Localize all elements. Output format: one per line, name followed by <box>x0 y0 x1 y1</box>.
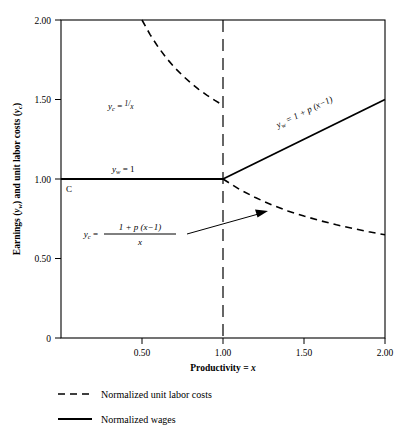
x-tick-label-100: 1.00 <box>215 348 232 358</box>
legend-label-unit-labor-costs: Normalized unit labor costs <box>101 389 212 400</box>
figure-container: 2.00 1.50 1.00 0.50 0 0.50 1.00 1.50 2.0… <box>0 0 405 433</box>
annotation-point-c: C <box>66 184 72 194</box>
x-axis-title-var: x <box>250 363 256 373</box>
annot-yw1-rest: = 1 <box>120 164 134 174</box>
y-axis-title: Earnings (yw) and unit labor costs (yc) <box>12 103 23 255</box>
x-axis-ticks <box>142 338 385 344</box>
annot-ycf-lhs: yc = <box>83 229 98 240</box>
y-axis-title-part3: ) <box>12 103 23 106</box>
y-axis-title-part1: Earnings ( <box>12 213 23 256</box>
x-axis-title: Productivity = x <box>190 363 256 373</box>
legend: Normalized unit labor costs Normalized w… <box>58 389 212 425</box>
y-axis-ticks <box>55 20 61 338</box>
annot-yc-eq: = <box>115 101 125 111</box>
annot-ycf-denominator: x <box>137 237 142 247</box>
y-tick-label-100: 1.00 <box>34 175 51 185</box>
annot-ycf-eq: = <box>91 229 98 239</box>
annotation-yw-constant: yw = 1 <box>111 164 134 175</box>
y-axis-title-part2: ) and unit labor costs ( <box>12 113 23 204</box>
y-tick-label-0: 0 <box>46 334 51 344</box>
x-tick-label-150: 1.50 <box>296 348 313 358</box>
x-tick-label-050: 0.50 <box>134 348 151 358</box>
y-tick-label-050: 0.50 <box>34 254 51 264</box>
legend-label-normalized-wages: Normalized wages <box>101 414 176 425</box>
y-tick-label-200: 2.00 <box>34 16 51 26</box>
y-tick-label-150: 1.50 <box>34 95 51 105</box>
annot-ycf-numerator: 1 + p (x−1) <box>119 222 161 232</box>
x-tick-label-200: 2.00 <box>377 348 394 358</box>
x-axis-title-text: Productivity = <box>190 363 251 373</box>
chart-svg: 2.00 1.50 1.00 0.50 0 0.50 1.00 1.50 2.0… <box>0 0 405 433</box>
annotation-yc-inverse-x: yc = 1/x <box>107 99 134 112</box>
annot-yc-den: x <box>129 102 134 111</box>
